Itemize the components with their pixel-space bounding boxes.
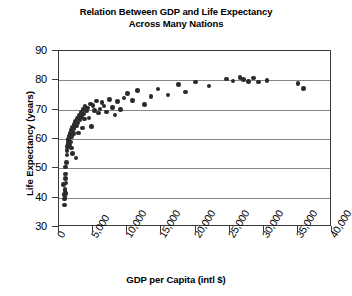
x-tick-label-0: 0 [55, 229, 67, 240]
x-tick-label-40000: 40,000 [328, 208, 352, 240]
y-tick-label-30: 30 [35, 221, 47, 232]
data-point [69, 146, 74, 151]
chart-figure: Relation Between GDP and Life Expectancy… [0, 0, 352, 296]
data-point [241, 77, 246, 82]
data-point [70, 151, 75, 156]
data-point [87, 116, 92, 121]
data-point [193, 80, 198, 85]
y-tick-label-70: 70 [35, 103, 47, 114]
data-point [183, 90, 188, 95]
data-point [176, 82, 181, 87]
y-tick-label-60: 60 [35, 133, 47, 144]
data-point [64, 160, 69, 165]
data-point [166, 93, 171, 98]
data-point [251, 76, 256, 81]
data-point [102, 104, 107, 109]
data-point [110, 105, 115, 110]
data-point [71, 131, 76, 136]
data-point [98, 107, 103, 112]
data-point [113, 113, 118, 118]
data-point [94, 99, 99, 104]
data-point [135, 88, 140, 93]
data-point [207, 84, 212, 89]
data-point [125, 91, 130, 96]
data-point [80, 126, 85, 131]
data-point [89, 124, 94, 129]
data-point [296, 81, 301, 86]
data-point [224, 77, 229, 82]
data-point [301, 86, 306, 91]
data-point [91, 103, 96, 108]
data-point [142, 102, 147, 107]
data-point [85, 106, 90, 111]
data-point [156, 87, 161, 92]
data-point [64, 191, 69, 196]
data-points [59, 51, 330, 225]
data-point [74, 156, 79, 161]
x-axis-title: GDP per Capita (intl $) [0, 274, 352, 285]
data-point [256, 80, 261, 85]
plot-area [58, 50, 331, 226]
data-point [68, 140, 73, 145]
data-point [76, 131, 81, 136]
y-tick-label-80: 80 [35, 74, 47, 85]
y-tick-label-90: 90 [35, 45, 47, 56]
data-point [82, 117, 87, 122]
y-tick-label-50: 50 [35, 162, 47, 173]
data-point [65, 153, 70, 158]
data-point [107, 97, 112, 102]
y-tick-label-40: 40 [35, 191, 47, 202]
data-point [104, 110, 109, 115]
data-point [62, 203, 67, 208]
y-axis-labels: 30405060708090 [0, 0, 56, 296]
data-point [64, 181, 69, 186]
data-point [118, 107, 123, 112]
data-point [246, 79, 251, 84]
data-point [115, 99, 120, 104]
data-point [149, 94, 154, 99]
data-point [63, 165, 68, 170]
data-point [122, 96, 127, 101]
data-point [96, 111, 101, 116]
data-point [231, 79, 236, 84]
data-point [130, 98, 135, 103]
data-point [265, 78, 270, 83]
